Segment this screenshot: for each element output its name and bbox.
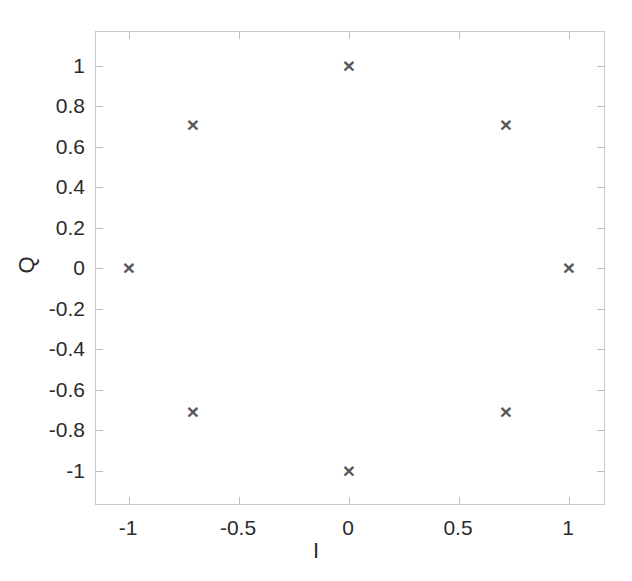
- x-tick-label: -0.5: [193, 517, 283, 538]
- scatter-marker: ×: [118, 257, 140, 279]
- y-tick-label: -0.4: [9, 338, 85, 359]
- x-tick-label: 0: [303, 517, 393, 538]
- y-tick-label: -1: [9, 460, 85, 481]
- y-tick-label: -0.2: [9, 298, 85, 319]
- y-tick-label: 0.6: [9, 136, 85, 157]
- y-tick-label: 1: [9, 55, 85, 76]
- y-tick-label: -0.6: [9, 379, 85, 400]
- x-tick-label: -1: [83, 517, 173, 538]
- scatter-marker: ×: [182, 401, 204, 423]
- y-tick-label: 0: [9, 257, 85, 278]
- x-tick-label: 0.5: [413, 517, 503, 538]
- scatter-marker: ×: [338, 460, 360, 482]
- plot-area: ××××××××: [95, 31, 605, 505]
- x-tick-label: 1: [523, 517, 613, 538]
- scatter-marker: ×: [182, 114, 204, 136]
- scatter-marker: ×: [338, 55, 360, 77]
- x-axis-title: I: [0, 540, 632, 562]
- scatter-marker: ×: [495, 114, 517, 136]
- y-tick-label: 0.8: [9, 95, 85, 116]
- scatter-marker: ×: [495, 401, 517, 423]
- y-tick-label: -0.8: [9, 419, 85, 440]
- data-point-layer: ××××××××: [96, 32, 604, 504]
- y-tick-label: 0.2: [9, 217, 85, 238]
- y-tick-label: 0.4: [9, 176, 85, 197]
- constellation-figure: Q 10.80.60.40.20-0.2-0.4-0.6-0.8-1 -1-0.…: [0, 0, 632, 581]
- scatter-marker: ×: [558, 257, 580, 279]
